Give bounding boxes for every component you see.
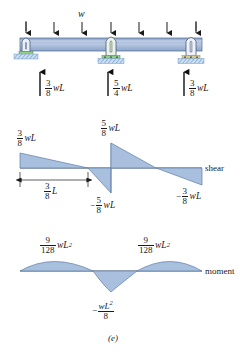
moment-center-min-label: − wL2 8	[92, 300, 114, 321]
moment-center-fraction: wL2 8	[98, 300, 114, 321]
moment-region-center-negative	[93, 271, 137, 292]
support-center-ground	[98, 59, 124, 64]
shear-region-left-positive	[20, 153, 88, 168]
shear-dimension-label: 3 8 L	[44, 182, 57, 201]
moment-right-exponent: 2	[167, 242, 170, 249]
figure-caption: (e)	[108, 333, 118, 343]
support-left-ground	[14, 54, 38, 59]
moment-region-left-positive	[20, 262, 93, 272]
center-reaction-label: 5 4 wL	[113, 79, 133, 98]
support-right-ground	[178, 59, 204, 64]
moment-left-max-label: 9 128 wL2	[40, 236, 72, 255]
moment-left-exponent: 2	[69, 242, 72, 249]
moment-center-exponent: 2	[110, 299, 113, 306]
shear-right-negative-label: − 3 8 wL	[176, 187, 201, 206]
distributed-load-label: w	[78, 8, 85, 19]
shear-center-negative-label: − 5 8 wL	[90, 196, 115, 215]
shear-axis-label: shear	[205, 163, 224, 173]
loaded-beam-group	[14, 21, 204, 96]
beam-shear-moment-figure	[0, 0, 240, 355]
shear-region-right-negative	[156, 168, 202, 185]
moment-region-right-positive	[137, 262, 202, 272]
moment-diagram-group	[20, 262, 202, 293]
shear-region-right-positive	[111, 143, 156, 168]
moment-axis-label: moment	[205, 266, 235, 276]
shear-left-max-label: 3 8 wL	[16, 129, 36, 148]
moment-right-max-label: 9 128 wL2	[138, 236, 170, 255]
right-reaction-label: 3 8 wL	[189, 79, 209, 98]
shear-center-positive-label: 5 8 wL	[100, 119, 120, 138]
distributed-load-arrows	[26, 22, 196, 33]
left-reaction-label: 3 8 wL	[45, 79, 65, 98]
shear-region-left-negative	[88, 168, 111, 193]
